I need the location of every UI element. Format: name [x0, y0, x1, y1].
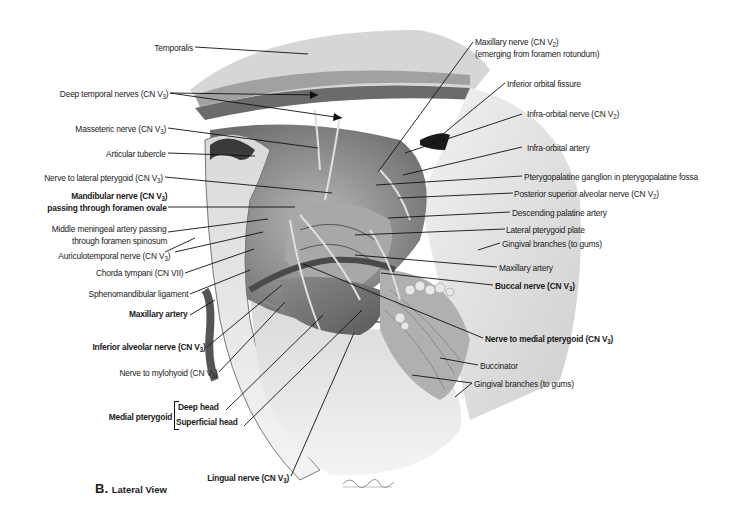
label-posterior-superior-alveolar-nerve: Posterior superior alveolar nerve (CN V2… [514, 188, 659, 199]
anatomy-figure: Temporalis Deep temporal nerves (CN V3) … [0, 0, 751, 526]
label-masseteric-nerve: Masseteric nerve (CN V3) [75, 123, 166, 134]
label-middle-meningeal-artery: Middle meningeal artery passing [52, 223, 167, 234]
label-inferior-orbital-fissure: Inferior orbital fissure [507, 78, 581, 89]
label-pterygopalatine-ganglion: Pterygopalatine ganglion in pterygopalat… [524, 171, 698, 182]
label-maxillary-nerve: Maxillary nerve (CN V2) [475, 36, 558, 47]
label-deep-temporal-nerves: Deep temporal nerves (CN V3) [59, 88, 168, 99]
label-lingual-nerve: Lingual nerve (CN V3) [207, 472, 289, 483]
label-maxillary-artery-right: Maxillary artery [499, 262, 553, 273]
label-inferior-alveolar-nerve: Inferior alveolar nerve (CN V3) [93, 341, 206, 352]
label-middle-meningeal-artery-line2: through foramen spinosum [72, 235, 167, 246]
label-buccal-nerve: Buccal nerve (CN V3) [495, 280, 575, 291]
label-maxillary-nerve-line2: (emerging from foramen rotundum) [475, 48, 599, 59]
artist-signature [340, 472, 400, 492]
label-buccinator: Buccinator [480, 360, 518, 371]
label-superficial-head: Superficial head [176, 416, 238, 427]
caption-text: Lateral View [112, 484, 167, 495]
label-infra-orbital-artery: Infra-orbital artery [527, 142, 589, 153]
label-lateral-pterygoid-plate: Lateral pterygoid plate [506, 224, 585, 235]
label-maxillary-artery-left: Maxillary artery [129, 308, 188, 319]
label-nerve-to-medial-pterygoid: Nerve to medial pterygoid (CN V3) [485, 333, 613, 344]
label-nerve-to-lateral-pterygoid: Nerve to lateral pterygoid (CN V3) [44, 172, 163, 183]
label-gingival-branches-lower: Gingival branches (to gums) [474, 378, 574, 389]
label-gingival-branches-upper: Gingival branches (to gums) [502, 238, 602, 249]
label-deep-head: Deep head [178, 401, 219, 412]
label-descending-palatine-artery: Descending palatine artery [512, 207, 607, 218]
label-auriculotemporal-nerve: Auriculotemporal nerve (CN V3) [58, 250, 170, 261]
label-medial-pterygoid: Medial pterygoid [108, 411, 172, 422]
label-temporalis: Temporalis [154, 42, 193, 53]
label-sphenomandibular-ligament: Sphenomandibular ligament [88, 288, 188, 299]
label-infra-orbital-nerve: Infra-orbital nerve (CN V2) [527, 108, 619, 119]
label-mandibular-nerve-line2: passing through foramen ovale [48, 202, 167, 213]
caption-letter: B. [95, 481, 108, 496]
label-chorda-tympani: Chorda tympani (CN VII) [96, 267, 183, 278]
leader-lines [0, 0, 751, 526]
label-nerve-to-mylohyoid: Nerve to mylohyoid (CN V3) [120, 367, 218, 378]
figure-caption: B. Lateral View [95, 481, 167, 496]
label-articular-tubercle: Articular tubercle [106, 148, 166, 159]
label-mandibular-nerve: Mandibular nerve (CN V3) [71, 190, 167, 201]
